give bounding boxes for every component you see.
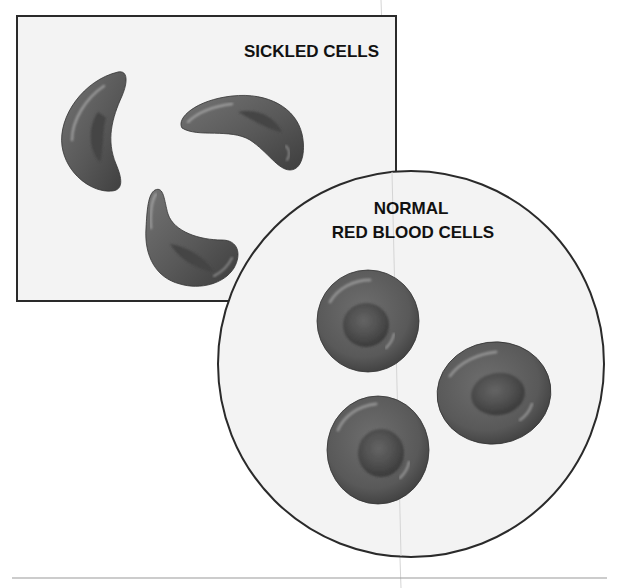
normal-cells-label-line2: RED BLOOD CELLS — [332, 223, 494, 242]
normal-cells-label-line1: NORMAL — [374, 199, 449, 218]
normal-cell-3 — [327, 396, 429, 504]
sickled-cells-label: SICKLED CELLS — [244, 42, 379, 61]
sickle-cell-diagram: SICKLED CELLS NORMAL RED BLOOD CELLS — [0, 0, 617, 588]
normal-cells-panel: NORMAL RED BLOOD CELLS — [218, 171, 604, 557]
normal-cell-1 — [317, 270, 419, 372]
